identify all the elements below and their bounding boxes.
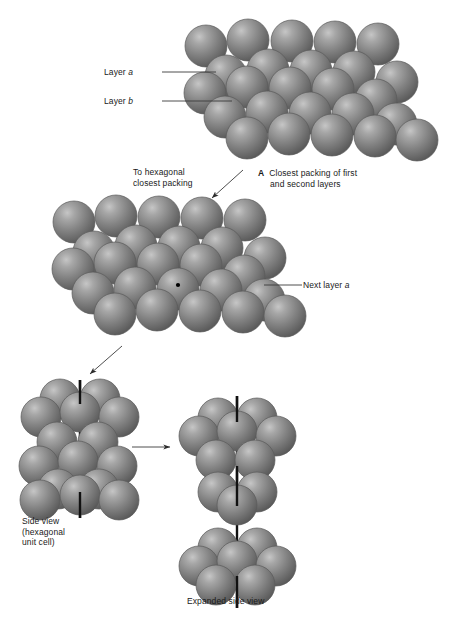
label-side-view-hexagonal-unit-cell: Side view(hexagonalunit cell): [22, 516, 65, 548]
sphere-row5: [136, 289, 178, 331]
cluster-closest-packing-first-second-layers: [184, 19, 438, 161]
label-layer-b: Layer b: [104, 96, 133, 107]
sphere-row5: [179, 290, 221, 332]
sphere-row5: [94, 293, 136, 335]
cluster-side-view-hexagonal-unit-cell: [19, 379, 139, 520]
caption-panel-a: A Closest packing of firstand second lay…: [258, 168, 357, 189]
arrow-to-hexagonal-closest-packing: [212, 170, 243, 198]
sphere-front: [396, 119, 438, 161]
sphere-front: [354, 115, 396, 157]
sphere-side-view: [99, 480, 139, 520]
sphere-side-view: [20, 480, 60, 520]
sphere-row5: [264, 295, 306, 337]
cluster-next-layer-a: [52, 195, 306, 337]
label-to-hexagonal-closest-packing: To hexagonalclosest packing: [133, 167, 193, 188]
sphere-front: [311, 114, 353, 156]
sphere-front: [226, 117, 268, 159]
label-layer-a: Layer a: [104, 67, 133, 78]
center-marker-dot: [176, 283, 180, 287]
figure-canvas: [0, 0, 449, 626]
sphere-front: [268, 113, 310, 155]
arrow-to-side-view: [90, 346, 122, 374]
label-expanded-side-view: Expanded side view: [187, 596, 264, 607]
sphere-row5: [222, 291, 264, 333]
hexagonal-closest-packing-figure: Layer a Layer b Next layer a To hexagona…: [0, 0, 449, 626]
label-next-layer-a: Next layer a: [303, 280, 350, 291]
cluster-expanded-side-view: [179, 396, 296, 608]
